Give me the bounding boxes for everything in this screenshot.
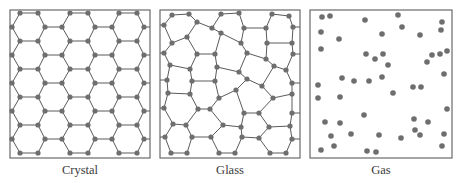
atom [92, 108, 97, 113]
atom [264, 40, 269, 45]
atom [35, 150, 40, 155]
atom [195, 106, 200, 111]
gas-particle [410, 84, 416, 90]
atom [9, 136, 14, 141]
glass-panel [160, 10, 300, 158]
atom [183, 122, 188, 127]
bond [217, 67, 239, 72]
atom [9, 108, 14, 113]
atom [269, 11, 274, 16]
bond [247, 53, 266, 59]
atom [208, 134, 213, 139]
phase-diagram-figure [0, 0, 462, 183]
atom [109, 108, 114, 113]
atom [187, 66, 192, 71]
atom [194, 51, 199, 56]
atom [85, 10, 90, 15]
atom [67, 94, 72, 99]
glass-label: Glass [160, 163, 300, 178]
atom [232, 150, 237, 155]
bond [211, 137, 219, 153]
atom [42, 108, 47, 113]
atom [109, 136, 114, 141]
atom [67, 10, 72, 15]
atom [134, 10, 139, 15]
gas-particle [398, 135, 404, 141]
bond [168, 93, 190, 94]
atom [85, 122, 90, 127]
atom [92, 52, 97, 57]
gas-particle [379, 74, 385, 80]
atom [141, 80, 146, 85]
atom [109, 80, 114, 85]
bond [236, 90, 244, 113]
atom [9, 80, 14, 85]
atom [85, 150, 90, 155]
bond [235, 137, 242, 153]
atom [167, 62, 172, 67]
bond [210, 109, 223, 125]
gas-particle [364, 148, 370, 154]
atom [289, 80, 294, 85]
atom [134, 94, 139, 99]
bond [273, 94, 292, 98]
gas-particle [322, 119, 328, 125]
gas-particle [399, 24, 405, 30]
atom [289, 40, 294, 45]
atom [212, 51, 217, 56]
atom [59, 136, 64, 141]
atom [271, 63, 276, 68]
gas-particle [362, 17, 368, 23]
atom [9, 24, 14, 29]
atom [283, 67, 288, 72]
atom [85, 66, 90, 71]
gas-particle [373, 149, 379, 155]
atom [263, 56, 268, 61]
atom [168, 150, 173, 155]
gas-particle [379, 31, 385, 37]
atom [35, 38, 40, 43]
atom [165, 90, 170, 95]
gas-particle [441, 131, 447, 137]
atom [270, 95, 275, 100]
atom [35, 122, 40, 127]
atom [194, 19, 199, 24]
gas-particle [331, 143, 337, 149]
atom [92, 24, 97, 29]
atom [256, 135, 261, 140]
atom [233, 87, 238, 92]
atom [218, 30, 223, 35]
atom [218, 11, 223, 16]
gas-particle [380, 51, 386, 57]
atom [216, 95, 221, 100]
gas-particle [315, 95, 321, 101]
atom [244, 76, 249, 81]
atom [161, 22, 166, 27]
atom [184, 150, 189, 155]
atom [116, 38, 121, 43]
gas-particle [441, 71, 447, 77]
atom [67, 38, 72, 43]
gas-particle [444, 48, 450, 54]
atom [170, 121, 175, 126]
gas-label: Gas [311, 163, 451, 178]
gas-particle [363, 51, 369, 57]
atom [236, 10, 241, 15]
atom [267, 150, 272, 155]
bond [286, 54, 293, 70]
bond [269, 126, 290, 127]
atom [42, 80, 47, 85]
atom [17, 10, 22, 15]
panel-border [10, 10, 150, 158]
gas-particle [337, 94, 343, 100]
gas-particle [318, 46, 324, 52]
gas-particle [351, 78, 357, 84]
atom [216, 150, 221, 155]
atom [141, 24, 146, 29]
atom [241, 25, 246, 30]
atom [289, 91, 294, 96]
atom [85, 38, 90, 43]
atom [164, 77, 169, 82]
atom [67, 122, 72, 127]
atom [189, 134, 194, 139]
